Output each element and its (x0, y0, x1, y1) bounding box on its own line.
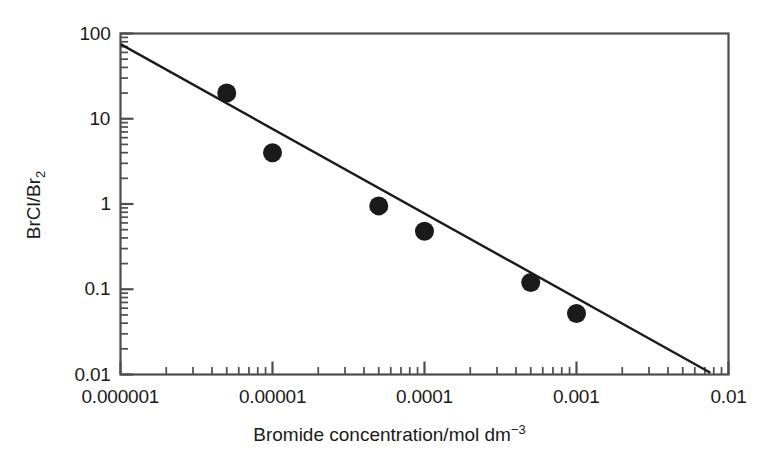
data-point-marker (521, 273, 540, 292)
y-tick-label: 10 (90, 108, 111, 130)
x-tick-label: 0.00001 (239, 386, 306, 408)
data-point-marker (369, 196, 388, 215)
y-tick-label: 0.1 (85, 278, 111, 300)
fit-line (121, 44, 711, 373)
y-tick-label: 100 (80, 23, 111, 45)
x-axis-title: Bromide concentration/mol dm−3 (0, 424, 779, 446)
y-axis-title-text: BrCl/Br2 (23, 171, 48, 239)
data-point-marker (217, 84, 236, 103)
y-axis-title-subscript: 2 (33, 171, 48, 178)
data-point-marker (415, 222, 434, 241)
x-tick-label: 0.0001 (396, 386, 453, 408)
y-axis-ticks (121, 34, 134, 375)
data-points (217, 84, 586, 323)
x-tick-label: 0.01 (711, 386, 747, 408)
x-axis-ticks (121, 362, 729, 375)
y-axis-title-base: BrCl/Br (23, 177, 44, 239)
trend-line (121, 44, 711, 373)
y-tick-label: 1 (101, 193, 111, 215)
plot-border (121, 34, 729, 375)
plot-frame (121, 34, 729, 375)
data-point-marker (567, 304, 586, 323)
data-point-marker (263, 143, 282, 162)
x-tick-label: 0.001 (553, 386, 600, 408)
x-tick-label: 0.000001 (82, 386, 160, 408)
y-axis-title: BrCl/Br2 (23, 171, 48, 239)
chart-figure: BrCl/Br2 0.0000010.000010.00010.0010.01 … (0, 0, 779, 465)
x-axis-title-exponent: −3 (511, 422, 526, 437)
y-tick-label: 0.01 (75, 364, 111, 386)
